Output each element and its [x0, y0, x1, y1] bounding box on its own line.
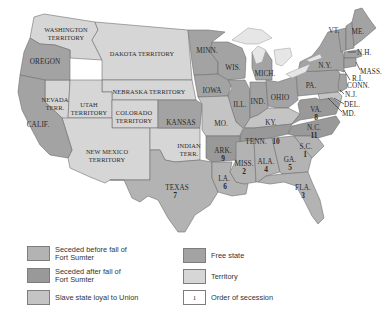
- label-washington-territory-2: TERRITORY: [48, 34, 85, 41]
- swatch-order: 1: [183, 290, 206, 305]
- label-indian-territory-1: INDIAN: [177, 142, 201, 149]
- swatch-seceded-before: [27, 246, 50, 261]
- legend-item-slave-loyal: Slave state loyal to Union: [27, 290, 165, 305]
- label-iowa: IOWA: [202, 87, 222, 95]
- order-alabama: 4: [264, 165, 268, 174]
- legend-label-free-state: Free state: [211, 252, 321, 260]
- label-maine: ME.: [352, 28, 365, 36]
- label-colorado-territory-2: TERRITORY: [116, 117, 153, 124]
- swatch-territory: [183, 269, 206, 284]
- order-mississippi: 2: [242, 167, 246, 176]
- label-new-york: N.Y.: [318, 62, 332, 70]
- label-new-mexico-territory-1: NEW MEXICO: [86, 148, 129, 155]
- legend-item-territory: Territory: [183, 269, 321, 284]
- label-missouri: MO.: [214, 120, 228, 128]
- legend-label-order: Order of secession: [211, 294, 321, 302]
- order-south-carolina: 1: [303, 150, 307, 159]
- legend-label-seceded-after: Seceded after fall of Fort Sumter: [55, 268, 165, 283]
- label-nevada-territory-2: TERR.: [46, 104, 65, 111]
- legend-item-seceded-before: Seceded before fall of Fort Sumter: [27, 246, 165, 261]
- order-tennessee: 10: [272, 137, 280, 146]
- label-utah-territory-2: TERRITORY: [71, 109, 108, 116]
- label-utah-territory-1: UTAH: [80, 101, 98, 108]
- region-connecticut-ri: [344, 58, 356, 68]
- label-massachusetts: MASS.: [360, 68, 382, 76]
- label-new-hampshire: N.H.: [357, 49, 371, 57]
- legend-label-seceded-before: Seceded before fall of Fort Sumter: [55, 246, 165, 261]
- swatch-seceded-after: [27, 268, 50, 283]
- order-texas: 7: [173, 191, 177, 200]
- region-new-jersey: [338, 74, 347, 92]
- label-indian-territory-2: TERR.: [180, 150, 199, 157]
- order-north-carolina: 11: [311, 131, 318, 140]
- label-indiana: IND.: [251, 98, 266, 106]
- order-florida: 3: [301, 191, 305, 200]
- label-connecticut: CONN.: [347, 82, 370, 90]
- legend-text-line: Fort Sumter: [55, 254, 165, 262]
- label-kentucky: KY.: [265, 119, 277, 127]
- legend-text-line: Fort Sumter: [55, 276, 165, 284]
- region-ohio: [266, 76, 298, 108]
- legend-item-order: 1 Order of secession: [183, 290, 321, 305]
- label-nevada-territory-1: NEVADA: [42, 96, 69, 103]
- region-maine: [352, 8, 376, 46]
- legend-item-seceded-after: Seceded after fall of Fort Sumter: [27, 268, 165, 283]
- swatch-free-state: [183, 248, 206, 263]
- label-new-jersey: N.J.: [345, 91, 357, 99]
- label-tennessee: TENN.: [245, 138, 267, 146]
- legend-label-slave-loyal: Slave state loyal to Union: [55, 294, 165, 302]
- label-nebraska-territory: NEBRASKA TERRITORY: [113, 88, 186, 95]
- label-colorado-territory-1: COLORADO: [116, 109, 153, 116]
- label-ohio: OHIO: [271, 94, 289, 102]
- label-dakota-territory: DAKOTA TERRITORY: [110, 50, 175, 57]
- label-new-mexico-territory-2: TERRITORY: [89, 156, 126, 163]
- label-illinois: ILL.: [233, 101, 246, 109]
- order-virginia: 8: [314, 113, 318, 122]
- label-minnesota: MINN.: [196, 47, 218, 55]
- label-michigan: MICH.: [254, 70, 275, 78]
- secession-map: WASHINGTON TERRITORY DAKOTA TERRITORY NE…: [0, 0, 392, 240]
- label-kansas: KANSAS: [166, 119, 195, 127]
- label-washington-territory-1: WASHINGTON: [44, 26, 88, 33]
- label-vermont: VT.: [328, 27, 339, 35]
- label-oregon: OREGON: [30, 58, 61, 66]
- label-texas: TEXAS: [165, 184, 189, 192]
- order-louisiana: 6: [223, 182, 227, 191]
- label-delaware: DEL.: [344, 101, 360, 109]
- map-legend: Seceded before fall of Fort Sumter Seced…: [0, 240, 392, 317]
- order-arkansas: 9: [221, 154, 225, 163]
- swatch-slave-loyal: [27, 290, 50, 305]
- order-georgia: 5: [288, 163, 292, 172]
- label-pennsylvania: PA.: [306, 82, 317, 90]
- legend-item-free-state: Free state: [183, 248, 321, 263]
- label-california: CALIF.: [27, 121, 50, 129]
- region-florida: [258, 172, 324, 224]
- label-wisconsin: WIS.: [225, 64, 240, 72]
- label-maryland: MD.: [342, 110, 356, 118]
- legend-label-territory: Territory: [211, 273, 321, 281]
